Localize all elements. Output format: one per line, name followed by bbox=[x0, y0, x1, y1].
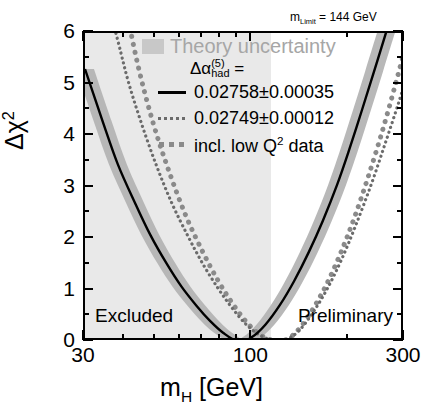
y-axis-title-delta-chi: Δχ bbox=[0, 120, 28, 150]
y-tick-right-minor-1 bbox=[397, 262, 403, 264]
x-tick-top-major-2 bbox=[402, 31, 404, 41]
y-tick-label-3: 3 bbox=[37, 175, 75, 196]
x-tick-top-minor-5 bbox=[235, 31, 237, 37]
legend-entry-solid: 0.02758±0.00035 bbox=[142, 79, 372, 105]
y-tick-right-minor-4 bbox=[397, 107, 403, 109]
legend-entry-thick-dotted: incl. low Q2 data bbox=[142, 131, 372, 157]
y-tick-right-minor-3 bbox=[397, 159, 403, 161]
x-tick-top-minor-2 bbox=[178, 31, 180, 37]
x-axis-title: mH [GeV] bbox=[0, 375, 423, 409]
x-tick-top-major-1 bbox=[249, 31, 251, 41]
m-limit-m: m bbox=[290, 10, 300, 24]
y-tick-right-minor-2 bbox=[397, 210, 403, 212]
x-tick-top-minor-0 bbox=[122, 31, 124, 37]
y-tick-label-6: 6 bbox=[37, 20, 75, 41]
y-tick-label-5: 5 bbox=[37, 72, 75, 93]
y-tick-label-1: 1 bbox=[37, 278, 75, 299]
m-limit-annotation: mLimit = 144 GeV bbox=[290, 11, 377, 28]
y-tick-major-0 bbox=[83, 339, 93, 341]
y-tick-major-1 bbox=[83, 288, 93, 290]
x-tick-label-100: 100 bbox=[220, 344, 280, 365]
y-tick-right-major-1 bbox=[393, 288, 403, 290]
alpha-subscript: had bbox=[211, 69, 229, 79]
x-tick-top-major-0 bbox=[82, 31, 84, 41]
m-limit-subscript: Limit bbox=[300, 17, 316, 26]
y-tick-label-2: 2 bbox=[37, 226, 75, 247]
y-tick-right-major-2 bbox=[393, 236, 403, 238]
plot-area: Excluded Preliminary Theory uncertainty … bbox=[83, 31, 403, 340]
legend-label-thick-main: incl. low Q bbox=[194, 136, 277, 156]
m-limit-value: = 144 GeV bbox=[316, 10, 377, 24]
x-tick-minor-5 bbox=[235, 334, 237, 340]
x-tick-minor-6 bbox=[346, 334, 348, 340]
y-tick-major-4 bbox=[83, 133, 93, 135]
x-tick-minor-1 bbox=[153, 334, 155, 340]
y-tick-right-major-3 bbox=[393, 185, 403, 187]
y-tick-minor-5 bbox=[83, 56, 89, 58]
legend-label-fine-dotted: 0.02749±0.00012 bbox=[194, 109, 334, 127]
x-axis-title-subscript: H bbox=[181, 388, 192, 405]
y-tick-right-major-5 bbox=[393, 82, 403, 84]
preliminary-label: Preliminary bbox=[298, 306, 393, 325]
y-axis-title: Δχ2 bbox=[0, 111, 27, 150]
x-tick-minor-3 bbox=[200, 334, 202, 340]
legend-label-thick-dotted: incl. low Q2 data bbox=[194, 132, 324, 155]
x-tick-major-2 bbox=[402, 330, 404, 340]
legend-label-solid: 0.02758±0.00035 bbox=[194, 83, 334, 101]
y-tick-minor-2 bbox=[83, 210, 89, 212]
alpha-symbol: Δα bbox=[190, 59, 211, 78]
theory-uncertainty-swatch bbox=[142, 39, 164, 54]
x-tick-major-0 bbox=[82, 330, 84, 340]
x-tick-top-minor-6 bbox=[346, 31, 348, 37]
y-tick-major-3 bbox=[83, 185, 93, 187]
legend-label-thick-tail: data bbox=[284, 136, 324, 156]
x-tick-top-minor-3 bbox=[200, 31, 202, 37]
y-tick-major-6 bbox=[83, 30, 93, 32]
x-tick-minor-2 bbox=[178, 334, 180, 340]
y-tick-major-2 bbox=[83, 236, 93, 238]
legend-theory-uncertainty: Theory uncertainty bbox=[142, 35, 372, 57]
excluded-label: Excluded bbox=[95, 306, 173, 325]
y-tick-minor-1 bbox=[83, 262, 89, 264]
y-tick-minor-0 bbox=[83, 313, 89, 315]
y-axis-title-exponent: 2 bbox=[0, 111, 17, 120]
y-tick-right-major-4 bbox=[393, 133, 403, 135]
legend-key-thick-dotted-line bbox=[156, 137, 190, 151]
legend: Theory uncertainty Δα (5) had = 0.02758±… bbox=[142, 35, 372, 157]
x-tick-top-minor-1 bbox=[153, 31, 155, 37]
x-axis-title-m: m bbox=[160, 373, 181, 401]
chi2-vs-higgs-mass-plot: Excluded Preliminary Theory uncertainty … bbox=[0, 0, 423, 419]
y-tick-minor-4 bbox=[83, 107, 89, 109]
y-tick-right-minor-0 bbox=[397, 313, 403, 315]
legend-key-solid-line bbox=[156, 85, 190, 99]
x-tick-major-1 bbox=[249, 330, 251, 340]
x-tick-minor-4 bbox=[218, 334, 220, 340]
legend-alpha-had-title: Δα (5) had = bbox=[142, 59, 372, 79]
alpha-equals: = bbox=[230, 59, 245, 78]
x-tick-top-minor-4 bbox=[218, 31, 220, 37]
legend-entry-fine-dotted: 0.02749±0.00012 bbox=[142, 105, 372, 131]
y-tick-major-5 bbox=[83, 82, 93, 84]
theory-uncertainty-label: Theory uncertainty bbox=[170, 36, 336, 56]
legend-key-fine-dotted-line bbox=[156, 111, 190, 125]
y-tick-right-minor-5 bbox=[397, 56, 403, 58]
x-axis-title-unit: [GeV] bbox=[192, 373, 263, 401]
x-tick-label-300: 300 bbox=[373, 344, 423, 365]
y-tick-label-4: 4 bbox=[37, 123, 75, 144]
x-tick-minor-0 bbox=[122, 334, 124, 340]
y-tick-minor-3 bbox=[83, 159, 89, 161]
x-tick-label-30: 30 bbox=[53, 344, 113, 365]
